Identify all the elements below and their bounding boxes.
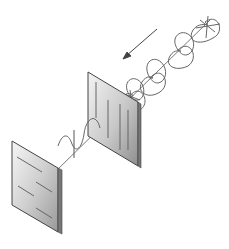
- polarization-diagram: [0, 0, 229, 249]
- diagram-canvas: [0, 0, 229, 249]
- polarizer-2: [12, 141, 62, 234]
- direction-arrow-icon: [123, 29, 157, 59]
- unpolarized-wave: [120, 16, 220, 112]
